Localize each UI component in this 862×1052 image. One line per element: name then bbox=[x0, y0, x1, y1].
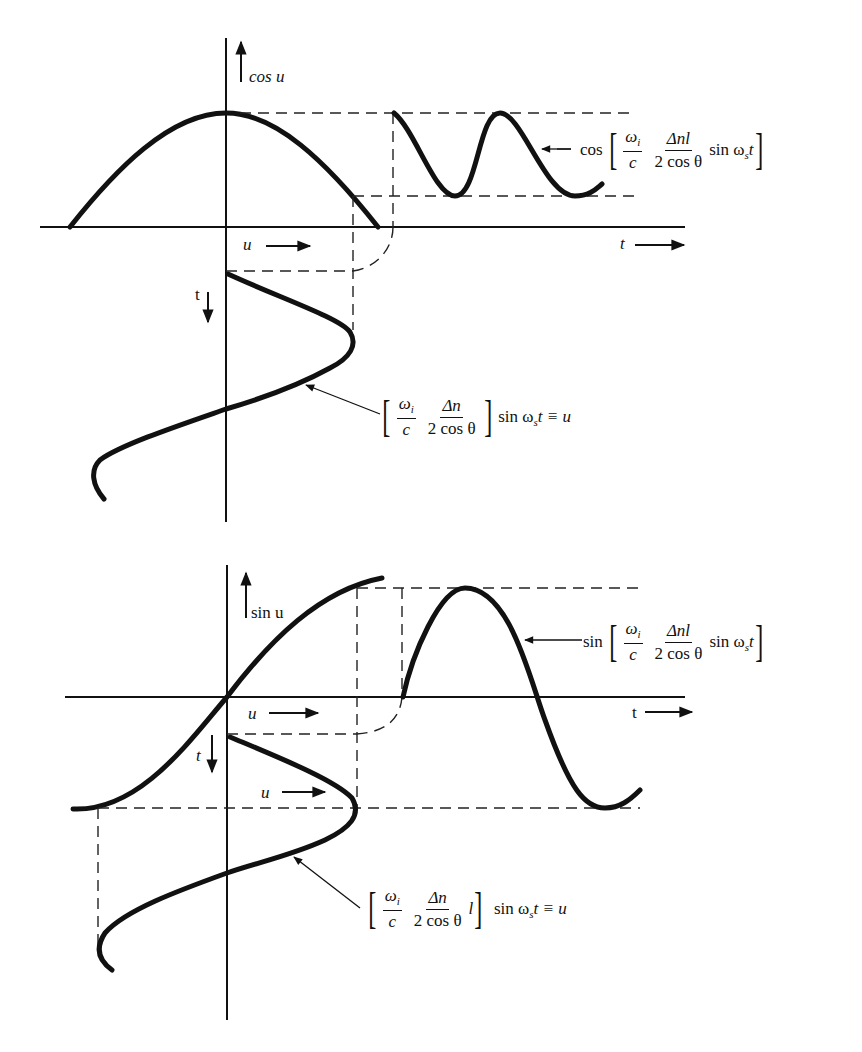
top-input-expression: [ ωi c Δn 2 cos θ ] sin ωst ≡ u bbox=[381, 395, 571, 439]
fraction-omega-c: ωi c bbox=[624, 620, 643, 663]
top-input-waveform bbox=[94, 274, 353, 499]
expr-func: sin bbox=[583, 632, 603, 652]
top-t-axis-label: t bbox=[620, 235, 625, 252]
right-bracket: ] bbox=[484, 395, 492, 439]
right-bracket: ] bbox=[755, 128, 763, 172]
top-y-axis-label: cos u bbox=[249, 68, 284, 85]
fraction-dn-2cos: Δn 2 cos θ bbox=[412, 889, 464, 930]
top-corner-dash bbox=[353, 227, 393, 271]
cos-output-waveform bbox=[394, 113, 602, 196]
fraction-dnl-2cos: Δnl 2 cos θ bbox=[652, 130, 704, 171]
fraction-dnl-2cos: Δnl 2 cos θ bbox=[653, 622, 705, 663]
cos-transfer-curve bbox=[70, 113, 378, 227]
bottom-u-axis-label-2: u bbox=[261, 784, 270, 801]
top-output-expression: cos [ ωi c Δnl 2 cos θ sin ωst ] bbox=[580, 128, 764, 172]
fraction-omega-c: ωi c bbox=[623, 128, 642, 171]
fraction-omega-c: ωi c bbox=[383, 887, 402, 930]
length-l: l bbox=[469, 899, 474, 919]
bottom-input-expression: [ ωi c Δn 2 cos θ l ] sin ωst ≡ u bbox=[367, 887, 567, 931]
cos-u-label: cos u bbox=[249, 67, 284, 86]
right-bracket: ] bbox=[755, 620, 763, 664]
left-bracket: [ bbox=[382, 395, 390, 439]
sin-u-label: sin u bbox=[251, 603, 284, 622]
bottom-input-pointer-arrow-icon bbox=[294, 857, 360, 908]
expr-func: cos bbox=[580, 140, 603, 160]
fraction-omega-c: ωi c bbox=[397, 395, 416, 438]
left-bracket: [ bbox=[609, 128, 617, 172]
bottom-u-axis-label: u bbox=[248, 705, 257, 722]
top-panel bbox=[40, 38, 685, 522]
bottom-corner-dash bbox=[357, 697, 402, 734]
top-u-axis-label: u bbox=[243, 236, 252, 253]
bottom-y-axis-label: sin u bbox=[251, 604, 284, 621]
left-bracket: [ bbox=[609, 620, 617, 664]
right-bracket: ] bbox=[475, 887, 483, 931]
fraction-dn-2cos: Δn 2 cos θ bbox=[426, 397, 478, 438]
bottom-output-expression: sin [ ωi c Δnl 2 cos θ sin ωst ] bbox=[583, 620, 764, 664]
bottom-t-axis-label: t bbox=[632, 704, 637, 721]
left-bracket: [ bbox=[368, 887, 376, 931]
bottom-t-down-label: t bbox=[196, 747, 201, 764]
top-t-down-label: t bbox=[195, 286, 200, 303]
top-input-pointer-arrow-icon bbox=[306, 385, 380, 414]
